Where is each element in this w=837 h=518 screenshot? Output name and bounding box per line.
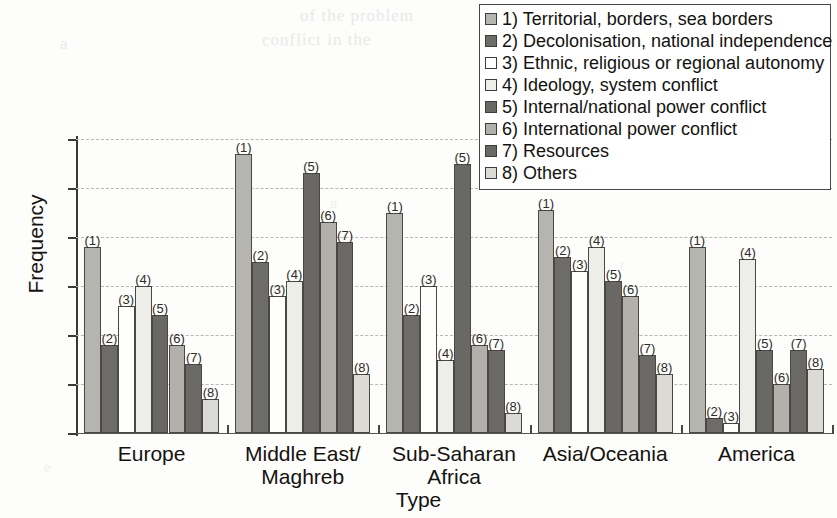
x-axis-category-line: Europe — [76, 443, 227, 466]
bar[interactable]: (1) — [84, 247, 101, 433]
legend-item-6[interactable]: 6) International power conflict — [485, 118, 826, 140]
x-axis-category-line: Africa — [378, 466, 529, 489]
bar[interactable]: (4) — [437, 360, 454, 434]
bar-group: (1)(2)(3)(4)(5)(6)(7)(8) — [76, 139, 227, 433]
bar[interactable]: (3) — [723, 423, 740, 433]
bar-series-label: (8) — [203, 386, 219, 399]
bar-series-label: (2) — [404, 302, 420, 315]
legend[interactable]: 1) Territorial, borders, sea borders2) D… — [479, 4, 831, 190]
bar[interactable]: (8) — [202, 399, 219, 433]
legend-item-8[interactable]: 8) Others — [485, 162, 826, 184]
legend-item-label: 4) Ideology, system conflict — [502, 75, 718, 96]
bar[interactable]: (8) — [807, 369, 824, 433]
bar[interactable]: (1) — [689, 247, 706, 433]
legend-swatch-icon — [485, 79, 497, 91]
x-axis-title: Type — [0, 488, 837, 512]
bar[interactable]: (5) — [756, 350, 773, 433]
bar[interactable]: (4) — [135, 286, 152, 433]
bar-series-label: (1) — [689, 234, 705, 247]
x-axis-category-line: America — [681, 443, 832, 466]
x-axis-group-separator — [227, 425, 229, 434]
bar[interactable]: (4) — [286, 281, 303, 433]
bar[interactable]: (5) — [605, 281, 622, 433]
bar[interactable]: (1) — [235, 154, 252, 433]
bar-series-label: (6) — [169, 332, 185, 345]
legend-swatch-icon — [485, 57, 497, 69]
bar-series-label: (3) — [421, 273, 437, 286]
bar-series-label: (8) — [505, 400, 521, 413]
bar[interactable]: (7) — [488, 350, 505, 433]
bar[interactable]: (8) — [353, 374, 370, 433]
bar[interactable]: (2) — [554, 257, 571, 433]
bar[interactable]: (6) — [622, 296, 639, 433]
legend-item-4[interactable]: 4) Ideology, system conflict — [485, 74, 826, 96]
legend-item-7[interactable]: 7) Resources — [485, 140, 826, 162]
bar-series-label: (4) — [438, 347, 454, 360]
legend-item-label: 3) Ethnic, religious or regional autonom… — [502, 53, 824, 74]
bar[interactable]: (3) — [269, 296, 286, 433]
bar-series-label: (3) — [118, 293, 134, 306]
bar-series-label: (7) — [488, 337, 504, 350]
bar[interactable]: (7) — [639, 355, 656, 433]
legend-item-label: 2) Decolonisation, national independence — [502, 31, 832, 52]
bar[interactable]: (6) — [471, 345, 488, 433]
legend-item-1[interactable]: 1) Territorial, borders, sea borders — [485, 8, 826, 30]
bar-series-label: (2) — [101, 332, 117, 345]
bar[interactable]: (2) — [706, 418, 723, 433]
x-axis-end-tick — [832, 425, 834, 434]
bar[interactable]: (1) — [538, 210, 555, 433]
legend-item-label: 7) Resources — [502, 141, 609, 162]
bar[interactable]: (1) — [386, 213, 403, 434]
bar-series-label: (6) — [623, 283, 639, 296]
bar[interactable]: (7) — [337, 242, 354, 433]
gridline-0 — [76, 433, 832, 434]
legend-swatch-icon — [485, 13, 497, 25]
legend-item-2[interactable]: 2) Decolonisation, national independence — [485, 30, 826, 52]
bar-series-label: (7) — [639, 342, 655, 355]
bar-group: (1)(2)(3)(4)(5)(6)(7)(8) — [227, 139, 378, 433]
bar-series-label: (8) — [808, 356, 824, 369]
bar-series-label: (5) — [303, 160, 319, 173]
legend-swatch-icon — [485, 123, 497, 135]
bar[interactable]: (2) — [403, 315, 420, 433]
scan-artifact-text: a — [60, 34, 69, 54]
legend-swatch-icon — [485, 145, 497, 157]
bar[interactable]: (5) — [303, 173, 320, 433]
bar[interactable]: (8) — [656, 374, 673, 433]
bar[interactable]: (6) — [773, 384, 790, 433]
bar[interactable]: (5) — [454, 164, 471, 434]
bar-series-label: (5) — [454, 151, 470, 164]
legend-item-3[interactable]: 3) Ethnic, religious or regional autonom… — [485, 52, 826, 74]
x-axis-category-label: Sub-SaharanAfrica — [378, 443, 529, 488]
bar[interactable]: (4) — [739, 259, 756, 433]
legend-item-label: 6) International power conflict — [502, 119, 737, 140]
bar[interactable]: (2) — [101, 345, 118, 433]
bar-series-label: (4) — [286, 268, 302, 281]
x-axis-category-line: Maghreb — [227, 466, 378, 489]
bar-series-label: (1) — [538, 197, 554, 210]
legend-item-5[interactable]: 5) Internal/national power conflict — [485, 96, 826, 118]
bar-series-label: (5) — [757, 337, 773, 350]
legend-swatch-icon — [485, 101, 497, 113]
bar[interactable]: (7) — [790, 350, 807, 433]
x-axis-group-separator — [681, 425, 683, 434]
scan-artifact-text: of the problem — [300, 6, 414, 26]
bar[interactable]: (2) — [252, 262, 269, 434]
legend-item-label: 5) Internal/national power conflict — [502, 97, 766, 118]
bar[interactable]: (7) — [185, 364, 202, 433]
x-axis-category-label: Asia/Oceania — [530, 443, 681, 466]
bar[interactable]: (6) — [169, 345, 186, 433]
bar-series-label: (1) — [387, 200, 403, 213]
bar-series-label: (2) — [253, 249, 269, 262]
bar-series-label: (7) — [337, 229, 353, 242]
chart-figure: of the problem conflict in the a n t e F… — [0, 0, 837, 518]
bar[interactable]: (5) — [152, 315, 169, 433]
legend-item-label: 8) Others — [502, 163, 577, 184]
bar[interactable]: (8) — [505, 413, 522, 433]
bar[interactable]: (3) — [571, 271, 588, 433]
bar[interactable]: (6) — [320, 222, 337, 433]
bar[interactable]: (3) — [118, 306, 135, 433]
bar[interactable]: (4) — [588, 247, 605, 433]
bar[interactable]: (3) — [420, 286, 437, 433]
bar-series-label: (3) — [269, 283, 285, 296]
